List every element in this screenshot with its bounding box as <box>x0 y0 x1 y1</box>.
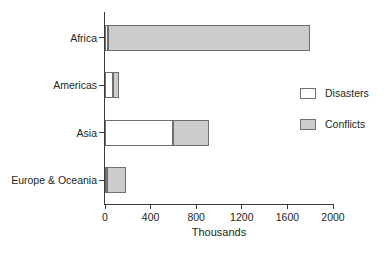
bar-segment-conflicts <box>113 72 119 98</box>
x-axis-tick <box>196 204 197 209</box>
bar-segment-disasters <box>105 120 173 146</box>
x-axis-line <box>104 204 334 205</box>
bar-group <box>105 120 333 146</box>
x-axis-tick <box>150 204 151 209</box>
bar-segment-conflicts <box>107 167 126 193</box>
x-axis-tick <box>241 204 242 209</box>
bar-segment-conflicts <box>173 120 208 146</box>
x-axis-tick <box>105 204 106 209</box>
x-axis-tick-label: 2000 <box>313 211 353 223</box>
bar-group <box>105 25 333 51</box>
legend-item: Disasters <box>300 86 369 100</box>
y-axis-tick <box>99 37 104 38</box>
bar-segment-disasters <box>105 72 113 98</box>
x-axis-tick <box>287 204 288 209</box>
y-axis-tick <box>99 132 104 133</box>
legend-swatch-icon <box>300 88 316 99</box>
x-axis-tick-label: 800 <box>176 211 216 223</box>
x-axis-tick-label: 1200 <box>222 211 262 223</box>
y-axis-tick-label: Africa <box>70 32 97 44</box>
bar-chart: AfricaAmericasAsiaEurope & Oceania 04008… <box>0 0 388 254</box>
x-axis-tick-label: 400 <box>131 211 171 223</box>
legend-label: Disasters <box>325 87 369 99</box>
y-axis-tick <box>99 180 104 181</box>
legend-item: Conflicts <box>300 117 369 131</box>
y-axis-tick-label: Asia <box>77 127 97 139</box>
y-axis-tick <box>99 85 104 86</box>
legend-label: Conflicts <box>325 118 365 130</box>
y-axis-tick-label: Americas <box>53 79 97 91</box>
y-axis-tick-label: Europe & Oceania <box>11 174 97 186</box>
x-axis-tick-label: 0 <box>85 211 125 223</box>
bar-group <box>105 167 333 193</box>
legend-swatch-icon <box>300 119 316 130</box>
chart-legend: DisastersConflicts <box>300 86 369 148</box>
x-axis-title: Thousands <box>105 226 333 238</box>
bar-segment-conflicts <box>108 25 310 51</box>
bar-group <box>105 72 333 98</box>
x-axis-tick <box>333 204 334 209</box>
x-axis-tick-label: 1600 <box>267 211 307 223</box>
plot-area <box>105 14 333 204</box>
